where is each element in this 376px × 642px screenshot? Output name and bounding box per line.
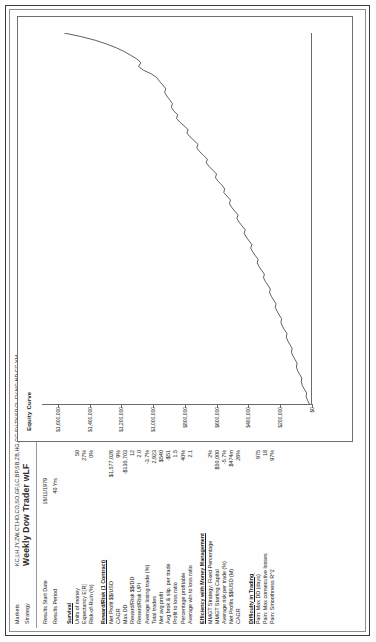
stats-row-value: 40%: [180, 450, 187, 512]
stats-row-label: Percentage profitable: [180, 512, 187, 624]
stats-row-label: MMGT Strategy: Fixed Percentage: [207, 512, 214, 624]
stats-row-label: Reward/Risk UPI: [136, 512, 143, 624]
stats-row-value: $474m: [228, 450, 235, 512]
stats-row: Max DD-$130,703: [122, 438, 129, 624]
stats-row-label: Max DD: [122, 512, 129, 624]
stats-row-label: Net avg profit: [158, 512, 165, 624]
stats-row: Profit to loss ratio1.5: [172, 438, 179, 624]
y-axis-tick-label: $1,000,000: [150, 407, 156, 441]
stats-row: Reward/Risk UPI2.0: [136, 438, 143, 624]
markets-label: Markets: [14, 566, 20, 624]
stats-row: MMGT Strategy: Fixed Percentage2%: [207, 438, 214, 624]
stats-row: Percentage profitable40%: [180, 438, 187, 624]
stats-row-label: Reward/Risk $$/DD: [129, 512, 136, 624]
stats-row-label: Profit to loss ratio: [172, 512, 179, 624]
stats-row: Units of money50: [74, 438, 81, 624]
stats-row-value: -5.7%: [221, 450, 228, 512]
y-axis-tick-mark: [185, 404, 186, 408]
stats-row: Net Profits $$/USD (M)$474m: [228, 438, 235, 624]
stats-row-value: 2,923: [151, 450, 158, 512]
stats-row-value: -3.7%: [144, 450, 151, 512]
y-axis-tick-label: $1,600,000: [55, 407, 61, 441]
report-page: Markets KC,LH,JY,ZW,CT,HO,CO,SO,GF,LC,BP…: [0, 0, 376, 642]
stats-row-value: 2.0: [136, 450, 143, 512]
stats-row-value: 27%: [81, 450, 88, 512]
report-page-frame: Markets KC,LH,JY,ZW,CT,HO,CO,SO,GF,LC,BP…: [0, 0, 376, 642]
stats-row: Average win to loss ratio2.1: [187, 438, 194, 624]
stats-row-value: $50,000: [214, 450, 221, 512]
stats-row: CAGR26%: [235, 438, 242, 624]
stats-row-label: Total trades: [151, 512, 158, 624]
y-axis-tick-mark: [312, 404, 313, 408]
strategy-label: Strategy: [24, 566, 30, 624]
stats-row-label: Net Profits $$/USD (M): [228, 512, 235, 624]
stats-group: SurvivalUnits of money50Expectancy E[R]2…: [66, 438, 95, 624]
stats-row: Pain: Smoothness R^297%: [269, 438, 276, 624]
stats-row-label: Units of money: [74, 512, 81, 624]
stats-group: Reward/Risk (1 Contract)Net Profit $$/US…: [100, 438, 194, 624]
stats-row-label: Pain: Max consecutive losses: [262, 512, 269, 624]
stats-row-value: 97%: [269, 450, 276, 512]
stats-group-title: Efficiency with Money Management: [199, 438, 205, 624]
y-axis-tick-mark: [248, 404, 249, 408]
stats-row-value: 26%: [235, 450, 242, 512]
stats-row: Risk-of-Ruin (%)0%: [88, 438, 95, 624]
stats-row-label: Pain: Smoothness R^2: [269, 512, 276, 624]
stats-row-label: Expectancy E[R]: [81, 512, 88, 624]
stats-row: Pain: Max consecutive losses18: [262, 438, 269, 624]
chart-title: Equity Curve: [26, 392, 32, 431]
stats-row-label: MMGT Starting Capital: [214, 512, 221, 624]
stats-group: Difficulty in TradingPain: Max DD (days)…: [248, 438, 277, 624]
stats-row-label: Average win to loss ratio: [187, 512, 194, 624]
results-start-date-value: 16/11/1979: [42, 478, 48, 552]
results-period-value: 40 Yrs: [52, 478, 58, 552]
chart-plot-area: [42, 33, 312, 405]
stats-group: Efficiency with Money ManagementMMGT Str…: [199, 438, 243, 624]
stats-row: Net avg profit$540: [158, 438, 165, 624]
y-axis-tick-mark: [280, 404, 281, 408]
equity-curve-chart: Equity Curve $0$200,000$400,000$600,000$…: [17, 16, 353, 442]
stats-row-label: Average losing trade (%): [144, 512, 151, 624]
y-axis-tick-label: $600,000: [214, 407, 220, 441]
stats-row: Pain: Max DD (days)975: [255, 438, 262, 624]
y-axis-tick-label: $1,200,000: [118, 407, 124, 441]
stats-row: MMGT Starting Capital$50,000: [214, 438, 221, 624]
stats-row: Net Profit $$/USD$1,577,026: [108, 438, 115, 624]
stats-row-value: 9%: [115, 450, 122, 512]
stats-row-value: 2.1: [187, 450, 194, 512]
stats-row-value: 12: [129, 450, 136, 512]
stats-row: Avg brok.& slip. per trade-$51: [165, 438, 172, 624]
stats-row-label: CAGR: [115, 512, 122, 624]
y-axis-tick-mark: [121, 404, 122, 408]
stats-row-value: -$51: [165, 450, 172, 512]
y-axis-tick-mark: [90, 404, 91, 408]
y-axis-tick-mark: [58, 404, 59, 408]
strategy-value: Weekly Dow Trader wLF: [21, 464, 31, 566]
stats-row-value: $1,577,026: [108, 450, 115, 512]
stats-row: Total trades2,923: [151, 438, 158, 624]
stats-row: CAGR9%: [115, 438, 122, 624]
stats-row-value: 975: [255, 450, 262, 512]
stats-row: Average risk per trade (%)-5.7%: [221, 438, 228, 624]
stats-row-label: CAGR: [235, 512, 242, 624]
stats-row-value: -$130,703: [122, 450, 129, 512]
results-period-label: Results Period: [52, 552, 58, 624]
stats-group-title: Reward/Risk (1 Contract): [100, 438, 106, 624]
stats-row-value: 18: [262, 450, 269, 512]
stats-row: Expectancy E[R]27%: [81, 438, 88, 624]
stats-row-label: Average risk per trade (%): [221, 512, 228, 624]
stats-group-title: Difficulty in Trading: [248, 438, 254, 624]
stats-row-value: $540: [158, 450, 165, 512]
y-axis-tick-label: $800,000: [182, 407, 188, 441]
stats-row-label: Pain: Max DD (days): [255, 512, 262, 624]
stats-row-label: Avg brok.& slip. per trade: [165, 512, 172, 624]
stats-row: Average losing trade (%)-3.7%: [144, 438, 151, 624]
statistics-table: SurvivalUnits of money50Expectancy E[R]2…: [66, 438, 282, 624]
y-axis-tick-mark: [217, 404, 218, 408]
y-axis-tick-label: $400,000: [245, 407, 251, 441]
y-axis-tick-mark: [153, 404, 154, 408]
stats-row: Reward/Risk $$/DD12: [129, 438, 136, 624]
stats-row-value: 50: [74, 450, 81, 512]
y-axis-tick-label: $1,400,000: [87, 407, 93, 441]
equity-curve-line: [42, 33, 311, 404]
